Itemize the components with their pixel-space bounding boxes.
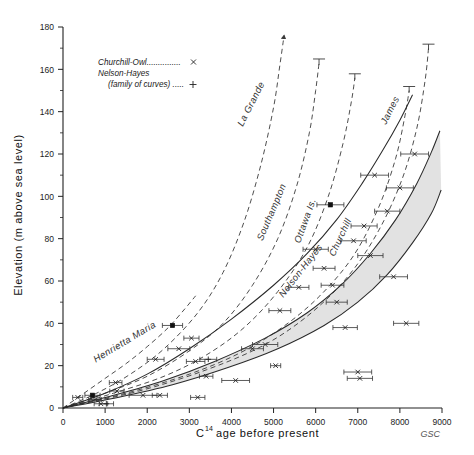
legend-entry-churchill-owl: Churchill-Owl...............: [98, 58, 181, 67]
marker-box-icon: [328, 203, 332, 207]
x-tick-label: 5000: [264, 417, 283, 427]
legend-entry-family-of-curves: (family of curves) .....: [108, 80, 184, 89]
data-point: [313, 266, 335, 271]
y-tick-label: 140: [40, 107, 54, 117]
axes-group: 0100020003000400050006000700080009000020…: [40, 22, 452, 427]
marker-box-icon: [170, 323, 174, 327]
curve-labels-group: Henrietta MariaLa GrandeSouthamptonOttaw…: [91, 80, 401, 365]
data-point: [85, 393, 100, 398]
x-tick-label: 0: [61, 417, 66, 427]
marker-box-icon: [90, 393, 94, 397]
data-point: [347, 376, 372, 381]
data-point: [386, 185, 413, 190]
x-tick-label: 6000: [306, 417, 325, 427]
data-point: [162, 323, 182, 328]
x-tick-label: 3000: [180, 417, 199, 427]
gsc-credit: GSC: [420, 429, 440, 439]
y-tick-label: 120: [40, 149, 54, 159]
curve-label-la-grande: La Grande: [235, 80, 267, 128]
y-tick-label: 80: [45, 234, 55, 244]
data-point: [361, 173, 389, 178]
legend-entry-nelson-hayes: Nelson-Hayes: [98, 69, 149, 78]
curve-label-henrietta-maria: Henrietta Maria: [91, 319, 157, 365]
data-point: [191, 395, 205, 400]
x-marker-icon: [191, 60, 196, 65]
y-tick-label: 40: [45, 319, 55, 329]
data-point: [344, 370, 372, 375]
x-axis-title-superscript: 14: [205, 425, 213, 432]
x-axis-title-rest: age before present: [216, 427, 319, 439]
data-point: [401, 152, 429, 157]
x-axis-title: C 14 age before present: [196, 425, 319, 439]
y-axis-title: Elevation (m above sea level): [12, 134, 24, 296]
legend: Churchill-Owl............... Nelson-Haye…: [98, 58, 197, 89]
nelson-hayes-envelope: [63, 131, 441, 408]
x-tick-label: 2000: [138, 417, 157, 427]
x-tick-label: 4000: [222, 417, 241, 427]
y-tick-label: 100: [40, 192, 54, 202]
data-point: [351, 223, 377, 228]
x-axis-title-base: C: [196, 427, 205, 439]
chart-canvas: Henrietta MariaLa GrandeSouthamptonOttaw…: [0, 0, 474, 455]
data-point: [184, 336, 199, 341]
data-point: [222, 378, 250, 383]
y-tick-label: 20: [45, 361, 55, 371]
y-tick-label: 160: [40, 65, 54, 75]
y-tick-label: 60: [45, 276, 55, 286]
data-point: [317, 202, 344, 207]
x-tick-label: 9000: [433, 417, 452, 427]
data-point: [152, 393, 167, 398]
data-point: [333, 325, 357, 330]
y-tick-label: 180: [40, 22, 54, 32]
nelson-hayes-band: [63, 131, 441, 408]
curve-label-nelson-hayes: Nelson-Hayes: [276, 242, 324, 300]
curve-label-churchill: Churchill: [326, 216, 353, 258]
data-point: [271, 363, 281, 368]
curve-label-james: James: [377, 94, 401, 127]
data-point: [147, 357, 164, 362]
curve-nelson-hayes-lower: [63, 190, 441, 408]
y-tick-label: 0: [49, 403, 54, 413]
emergence-curve-figure: Henrietta MariaLa GrandeSouthamptonOttaw…: [0, 0, 474, 455]
curve-label-ottawa-is-: Ottawa Is.: [292, 197, 318, 245]
x-tick-label: 7000: [348, 417, 367, 427]
data-point: [394, 321, 419, 326]
x-tick-label: 1000: [96, 417, 115, 427]
curve-label-southampton: Southampton: [254, 182, 288, 242]
x-tick-label: 8000: [390, 417, 409, 427]
data-point: [269, 308, 291, 313]
plus-marker-icon: [190, 81, 197, 88]
